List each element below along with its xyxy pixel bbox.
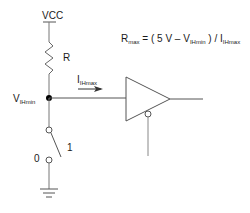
current-label: IIHmax bbox=[77, 75, 97, 86]
formula-v-sub: IHmin bbox=[190, 39, 206, 45]
vcc-label: VCC bbox=[42, 11, 63, 21]
formula-r-sub: max bbox=[128, 39, 139, 45]
circuit-schematic bbox=[0, 0, 250, 213]
switch-contact-bottom bbox=[46, 157, 52, 163]
switch-label-closed: 1 bbox=[67, 143, 73, 153]
formula-div: ) / bbox=[206, 33, 220, 44]
current-sub: IHmax bbox=[80, 80, 97, 86]
switch-lever bbox=[51, 133, 61, 157]
formula-eq: = ( 5 V – bbox=[140, 33, 184, 44]
switch-label-open: 0 bbox=[34, 154, 40, 164]
formula-v: V bbox=[183, 33, 190, 44]
resistor-label: R bbox=[63, 53, 70, 63]
enable-bubble-icon bbox=[145, 111, 151, 117]
current-arrow-icon bbox=[78, 86, 103, 92]
vcc-supply bbox=[43, 22, 56, 42]
rmax-formula: Rmax = ( 5 V – VIHmin ) / IIHmax bbox=[121, 34, 240, 45]
formula-i-sub: IHmax bbox=[223, 39, 240, 45]
node-voltage-sub: IHmin bbox=[20, 99, 36, 105]
ground-icon bbox=[40, 189, 58, 197]
node-voltage-main: V bbox=[13, 93, 20, 104]
node-voltage-label: VIHmin bbox=[13, 94, 35, 105]
switch-contact-top bbox=[46, 127, 52, 133]
resistor bbox=[45, 42, 53, 74]
